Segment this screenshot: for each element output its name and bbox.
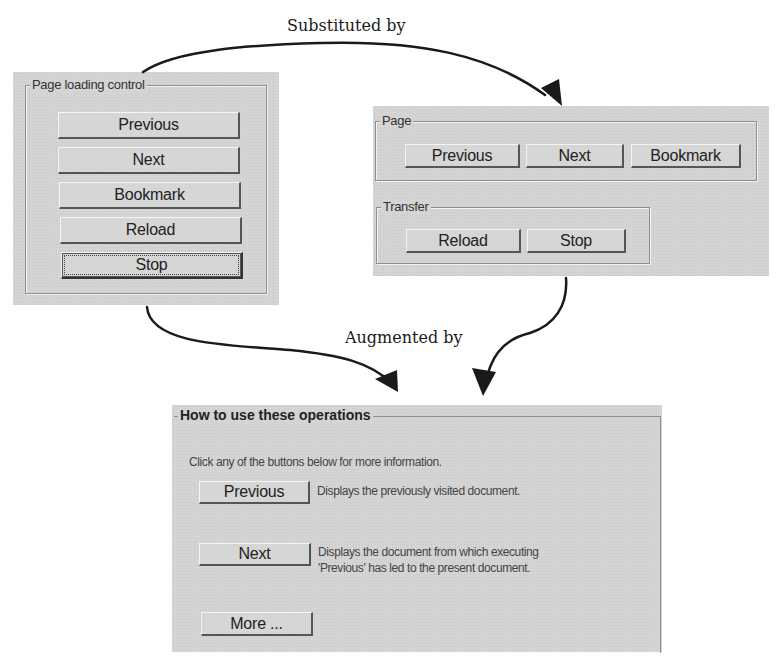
augmented-right-arrowhead-icon	[472, 368, 496, 396]
substituted-arrowhead-icon	[541, 79, 562, 106]
augmented-right-arrow-path	[485, 278, 566, 385]
substituted-arrow-path	[143, 43, 545, 95]
augmented-left-arrow-path	[147, 307, 393, 384]
transition-arrows	[0, 0, 781, 661]
